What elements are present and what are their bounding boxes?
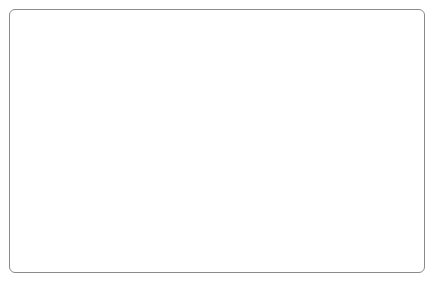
chart-container: 0%-5%-10%-15%-20%-25%-30%-35% 0%5 %10 %1… [0, 0, 437, 288]
chart-outer-frame [9, 9, 425, 273]
